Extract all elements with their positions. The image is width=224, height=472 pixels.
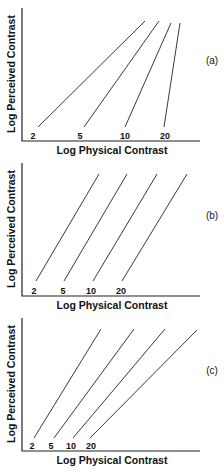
panel-a: 251020Log Physical ContrastLog Perceived… (5, 8, 218, 156)
panel-b: 251020Log Physical ContrastLog Perceived… (5, 163, 218, 311)
line-label: 5 (77, 131, 82, 141)
line-label: 2 (30, 131, 35, 141)
y-axis-label: Log Perceived Contrast (5, 170, 17, 288)
line-label: 10 (86, 286, 96, 296)
line-label: 5 (48, 441, 53, 451)
line-5 (64, 174, 127, 281)
y-axis-label: Log Perceived Contrast (5, 325, 17, 443)
line-20 (90, 330, 197, 438)
line-label: 20 (160, 131, 170, 141)
line-2 (36, 174, 99, 281)
panel-label: (b) (206, 210, 218, 221)
line-label: 2 (31, 286, 36, 296)
line-2 (38, 21, 145, 127)
line-label: 20 (86, 441, 96, 451)
contrast-figure: 251020Log Physical ContrastLog Perceived… (0, 0, 224, 472)
line-label: 20 (116, 286, 126, 296)
line-10 (125, 23, 171, 127)
x-axis-label: Log Physical Contrast (57, 299, 168, 311)
x-axis-label: Log Physical Contrast (57, 144, 168, 156)
panel-c: 251020Log Physical ContrastLog Perceived… (5, 318, 218, 466)
line-20 (122, 174, 187, 281)
panel-label: (a) (206, 55, 218, 66)
axes (22, 318, 200, 451)
axes (22, 163, 200, 296)
line-label: 5 (60, 286, 65, 296)
line-label: 2 (29, 441, 34, 451)
axes (22, 8, 200, 141)
line-10 (73, 329, 165, 438)
line-5 (84, 21, 159, 127)
line-2 (34, 329, 101, 438)
panel-label: (c) (206, 365, 218, 376)
line-label: 10 (120, 131, 130, 141)
line-20 (164, 23, 180, 127)
line-5 (54, 329, 134, 438)
x-axis-label: Log Physical Contrast (57, 454, 168, 466)
line-label: 10 (66, 441, 76, 451)
line-10 (93, 174, 157, 281)
y-axis-label: Log Perceived Contrast (5, 15, 17, 133)
